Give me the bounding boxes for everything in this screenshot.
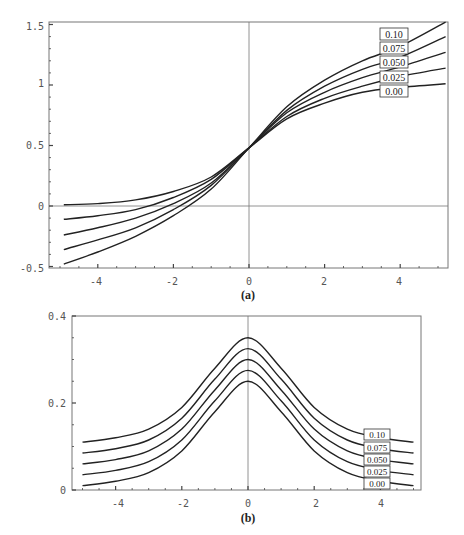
svg-text:0.10: 0.10 bbox=[385, 29, 403, 40]
plot-b-ytick: 0.2 bbox=[48, 398, 66, 409]
plot-b-ytick: 0 bbox=[60, 485, 66, 496]
svg-text:0.075: 0.075 bbox=[383, 43, 406, 54]
plot-a-xtick: -2 bbox=[166, 276, 178, 287]
plot-a-ytick: 1.5 bbox=[26, 21, 44, 32]
plot-a-label-0.025: 0.025 bbox=[380, 71, 408, 83]
plot-a-label-0.050: 0.050 bbox=[380, 56, 408, 68]
curve-0.075 bbox=[64, 37, 446, 250]
plot-a-label-0.075: 0.075 bbox=[380, 42, 408, 54]
svg-text:0.025: 0.025 bbox=[367, 467, 388, 477]
svg-text:0.075: 0.075 bbox=[367, 443, 388, 453]
svg-text:0.025: 0.025 bbox=[383, 72, 406, 83]
svg-text:0.050: 0.050 bbox=[367, 455, 388, 465]
plot-a-label-0.00: 0.00 bbox=[380, 85, 408, 97]
plot-a-ytick: -0.5 bbox=[20, 263, 44, 274]
plot-b-ticks bbox=[72, 316, 414, 490]
plot-b-xtick: 0 bbox=[245, 498, 251, 509]
svg-text:0.00: 0.00 bbox=[385, 86, 403, 97]
plot-b: 0.4 0.2 0 -4 -2 0 2 4 0.10 0.075 0.050 0… bbox=[48, 311, 421, 525]
plot-a-xtick: -4 bbox=[90, 276, 102, 287]
plot-a-xtick: 2 bbox=[321, 276, 327, 287]
plot-b-xtick: -4 bbox=[112, 498, 124, 509]
plot-b-label-0.050: 0.050 bbox=[364, 454, 390, 465]
svg-text:0.10: 0.10 bbox=[369, 430, 385, 440]
svg-text:0.00: 0.00 bbox=[369, 479, 385, 489]
plot-a-ytick: 0.5 bbox=[26, 140, 44, 151]
plot-a-ytick: 1 bbox=[38, 78, 44, 89]
svg-text:0.050: 0.050 bbox=[383, 57, 406, 68]
plot-b-ytick: 0.4 bbox=[48, 311, 66, 322]
plot-b-label-0.10: 0.10 bbox=[364, 429, 390, 440]
plot-a-caption: (a) bbox=[241, 288, 255, 302]
plot-b-xtick: -2 bbox=[177, 498, 189, 509]
plot-b-label-0.00: 0.00 bbox=[364, 478, 390, 489]
plot-b-label-0.025: 0.025 bbox=[364, 466, 390, 477]
plot-b-xtick: 2 bbox=[313, 498, 319, 509]
plot-b-caption: (b) bbox=[241, 511, 256, 525]
plot-a-ytick: 0 bbox=[38, 201, 44, 212]
plot-a: 1.5 1 0.5 0 -0.5 -4 -2 0 2 4 0.10 0.075 … bbox=[20, 21, 448, 302]
plot-a-label-0.10: 0.10 bbox=[380, 28, 408, 40]
plot-b-label-0.075: 0.075 bbox=[364, 442, 390, 453]
figure: 1.5 1 0.5 0 -0.5 -4 -2 0 2 4 0.10 0.075 … bbox=[0, 0, 464, 535]
plot-a-xtick: 0 bbox=[246, 276, 252, 287]
plot-a-xtick: 4 bbox=[396, 276, 402, 287]
plot-b-xtick: 4 bbox=[378, 498, 384, 509]
curve-0.00 bbox=[64, 84, 446, 205]
